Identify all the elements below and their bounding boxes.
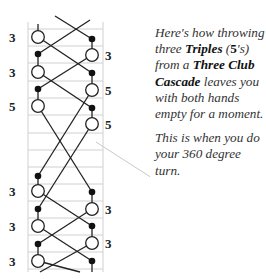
triples-term: Triples — [185, 41, 223, 56]
left-label: 3 — [9, 254, 16, 269]
right-label: 3 — [105, 202, 112, 217]
throw-paths — [38, 16, 92, 272]
siteswap-five: 5 — [230, 41, 237, 56]
right-label: 5 — [105, 117, 112, 132]
left-label: 5 — [9, 99, 16, 114]
pointer-line — [96, 142, 150, 178]
left-throw-labels: 3 3 5 3 3 3 — [9, 30, 16, 269]
left-label: 3 — [9, 65, 16, 80]
left-label: 3 — [9, 219, 16, 234]
right-label: 3 — [105, 236, 112, 251]
caption-paragraph-2: This is when you do your 360 degree turn… — [155, 130, 265, 179]
left-label: 3 — [9, 184, 16, 199]
caption: Here's how throwing three Triples (5's) … — [155, 25, 265, 187]
right-label: 5 — [105, 83, 112, 98]
juggling-ladder-diagram: 3 3 5 3 3 3 3 5 5 3 3 — [0, 0, 150, 279]
caption-paragraph-1: Here's how throwing three Triples (5's) … — [155, 25, 265, 122]
left-label: 3 — [9, 30, 16, 45]
right-label: 3 — [105, 48, 112, 63]
